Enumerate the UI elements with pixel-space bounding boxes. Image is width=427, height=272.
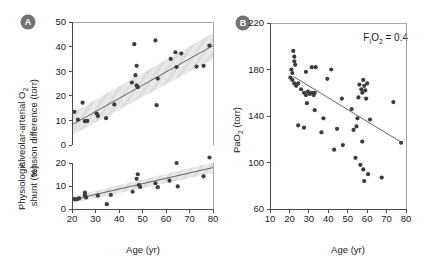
panel-a-top-data-point xyxy=(96,114,100,118)
panel-b-data-point xyxy=(354,124,358,128)
panel-a-top-y-tick-label: 0 xyxy=(61,139,66,150)
panel-a-top-data-point xyxy=(155,103,159,107)
panel-a-top-ylabel-line2: tension difference (torr) xyxy=(28,79,39,177)
panel-b-data-point xyxy=(365,81,369,85)
panel-b-data-point xyxy=(357,83,361,87)
panel-b-x-tick-label: 40 xyxy=(323,213,334,224)
panel-a-top-data-point xyxy=(207,44,211,48)
panel-a-bottom-data-point xyxy=(136,172,140,176)
panel-a-bottom-ylabel: Physiologic shunt (%) xyxy=(16,162,39,210)
panel-b-data-point xyxy=(296,81,300,85)
panel-a-bottom-data-point xyxy=(174,161,178,165)
panel-a-top-data-point xyxy=(156,76,160,80)
panel-b-x-tick-label: 50 xyxy=(342,213,353,224)
panel-a-top-data-point xyxy=(85,119,89,123)
panel-b-data-point xyxy=(319,130,323,134)
panel-b-data-point xyxy=(380,176,384,180)
panel-a-bottom-data-point xyxy=(83,191,87,195)
panel-a-bottom-data-point xyxy=(84,195,88,199)
panel-b-data-point xyxy=(329,67,333,71)
panel-b-data-point xyxy=(364,96,368,100)
panel-b-data-point xyxy=(360,139,364,143)
panel-a-x-tick-label: 60 xyxy=(161,213,172,224)
panel-b-data-point xyxy=(358,163,362,167)
panel-a-badge: A xyxy=(21,15,36,30)
panel-a-top-data-point xyxy=(104,116,108,120)
panel-a-bottom-data-point xyxy=(153,181,157,185)
panel-a-top-data-point xyxy=(72,110,76,114)
panel-b-data-point xyxy=(310,65,314,69)
panel-a-top-data-point xyxy=(153,38,157,42)
panel-a-top-y-tick-label: 30 xyxy=(55,66,66,77)
panel-a-bottom-data-point xyxy=(138,185,142,189)
panel-b-data-point xyxy=(291,49,295,53)
panel-a-top-ylabel-line1: Alveolar-arterial O2 xyxy=(16,88,29,169)
panel-b-data-point xyxy=(292,55,296,59)
panel-b-data-point xyxy=(351,128,355,132)
panel-b-data-point xyxy=(350,107,354,111)
panel-a-bottom-data-point xyxy=(131,190,135,194)
panel-a-x-axis-title: Age (yr) xyxy=(126,244,160,255)
panel-a-top-data-point xyxy=(132,42,136,46)
panel-a-x-tick-label: 20 xyxy=(67,213,78,224)
panel-a-bottom-data-point xyxy=(156,185,160,189)
panel-a-bottom-data-point xyxy=(77,196,81,200)
panel-a-bottom-data-point xyxy=(202,174,206,178)
panel-b-x-tick-label: 80 xyxy=(401,213,412,224)
panel-b-y-tick-label: 100 xyxy=(248,157,264,168)
panel-a-bottom-y-tick-label: 20 xyxy=(55,157,66,168)
panel-b-x-axis-title: Age (yr) xyxy=(331,244,365,255)
panel-b-data-point xyxy=(299,87,303,91)
panel-a-top-y-tick-label: 10 xyxy=(55,115,66,126)
panel-b-data-point xyxy=(361,78,365,82)
panel-a-top-data-point xyxy=(112,102,116,106)
panel-b-data-point xyxy=(361,167,365,171)
panel-a-bottom-data-point xyxy=(135,177,139,181)
panel-a-x-tick-label: 40 xyxy=(114,213,125,224)
panel-a-top-data-point xyxy=(136,85,140,89)
panel-a-top-data-point xyxy=(130,80,134,84)
panel-b-data-point xyxy=(293,63,297,67)
panel-b-badge-label: B xyxy=(240,18,247,28)
panel-a-top-data-point xyxy=(174,65,178,69)
panel-a-top-data-point xyxy=(80,101,84,105)
panel-a-bottom-data-point xyxy=(96,194,100,198)
panel-b-x-tick-label: 60 xyxy=(362,213,373,224)
panel-b-data-point xyxy=(313,91,317,95)
panel-a-top-y-tick-label: 20 xyxy=(55,90,66,101)
panel-a-bottom-data-point xyxy=(207,155,211,159)
panel-b-data-point xyxy=(290,71,294,75)
panel-b-data-point xyxy=(362,179,366,183)
panel-a-bottom-data-point xyxy=(176,184,180,188)
panel-b-data-point xyxy=(366,172,370,176)
panel-a-bottom-data-point xyxy=(105,202,109,206)
panel-a-bottom-ylabel-line2: shunt (%) xyxy=(28,166,39,207)
panel-b-data-point xyxy=(363,88,367,92)
panel-b-y-tick-label: 140 xyxy=(248,110,264,121)
panel-b-x-tick-label: 70 xyxy=(381,213,392,224)
panel-b-data-point xyxy=(313,108,317,112)
panel-a-bottom-data-point xyxy=(167,179,171,183)
panel-b-data-point xyxy=(368,117,372,121)
panel-a-top-data-point xyxy=(202,64,206,68)
panel-b-data-point xyxy=(341,143,345,147)
panel-a-top-data-point xyxy=(76,118,80,122)
panel-a-top-data-point xyxy=(179,51,183,55)
figure-svg: A Alveolar-arterial O2 tension differenc… xyxy=(0,0,427,272)
panel-a-x-tick-label: 80 xyxy=(208,213,219,224)
panel-a-top-data-point xyxy=(135,64,139,68)
panel-a-bottom-y-tick-label: 0 xyxy=(61,203,66,214)
panel-b-x-tick-label: 30 xyxy=(304,213,315,224)
panel-a-top-y-tick-label: 50 xyxy=(55,16,66,27)
panel-a-bottom-y-tick-label: 10 xyxy=(55,180,66,191)
panel-b-data-point xyxy=(325,77,329,81)
panel-b-x-tick-label: 10 xyxy=(265,213,276,224)
panel-b-y-tick-label: 60 xyxy=(253,203,264,214)
panel-b-data-point xyxy=(305,101,309,105)
panel-b-data-point xyxy=(340,96,344,100)
panel-a-top-y-tick-label: 40 xyxy=(55,41,66,52)
panel-b-data-point xyxy=(391,100,395,104)
panel-b-data-point xyxy=(302,126,306,130)
panel-b-data-point xyxy=(356,95,360,99)
panel-a-top-data-point xyxy=(133,73,137,77)
